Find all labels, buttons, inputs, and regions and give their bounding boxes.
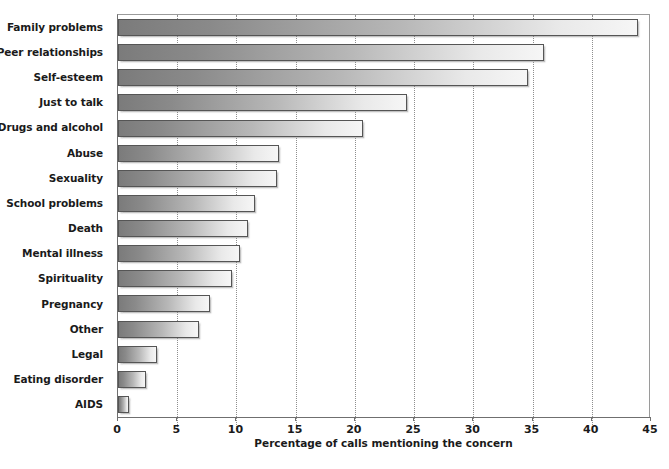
x-tick-label: 0 bbox=[113, 423, 121, 436]
bar bbox=[118, 69, 528, 86]
x-tick-label: 40 bbox=[583, 423, 598, 436]
x-tick-label: 25 bbox=[405, 423, 420, 436]
x-tick-label: 20 bbox=[346, 423, 361, 436]
bar-row bbox=[118, 216, 649, 241]
x-tick-label: 5 bbox=[172, 423, 180, 436]
x-tick-mark bbox=[176, 417, 177, 421]
bar bbox=[118, 195, 255, 212]
bar bbox=[118, 346, 157, 363]
x-axis-title: Percentage of calls mentioning the conce… bbox=[117, 437, 650, 449]
category-label: Peer relationships bbox=[0, 39, 110, 64]
bar bbox=[118, 295, 210, 312]
bar-row bbox=[118, 116, 649, 141]
bar bbox=[118, 270, 232, 287]
category-label: AIDS bbox=[0, 392, 110, 417]
bar-row bbox=[118, 241, 649, 266]
plot-area bbox=[117, 14, 650, 417]
category-label: School problems bbox=[0, 190, 110, 215]
category-label: Sexuality bbox=[0, 165, 110, 190]
bar-row bbox=[118, 90, 649, 115]
bar bbox=[118, 44, 544, 61]
category-label: Death bbox=[0, 216, 110, 241]
bar-row bbox=[118, 40, 649, 65]
category-label: Just to talk bbox=[0, 90, 110, 115]
bar-row bbox=[118, 342, 649, 367]
category-label: Mental illness bbox=[0, 241, 110, 266]
bar-row bbox=[118, 141, 649, 166]
bar-row bbox=[118, 392, 649, 417]
category-label: Eating disorder bbox=[0, 367, 110, 392]
x-tick-label: 45 bbox=[642, 423, 657, 436]
bar bbox=[118, 120, 363, 137]
category-label: Pregnancy bbox=[0, 291, 110, 316]
bar bbox=[118, 396, 129, 413]
bar-row bbox=[118, 317, 649, 342]
bar-row bbox=[118, 266, 649, 291]
x-tick-mark bbox=[413, 417, 414, 421]
x-tick-label: 30 bbox=[465, 423, 480, 436]
category-label: Self-esteem bbox=[0, 64, 110, 89]
bar-chart: Family problemsPeer relationshipsSelf-es… bbox=[0, 0, 669, 469]
x-tick-mark bbox=[117, 417, 118, 421]
bar bbox=[118, 145, 279, 162]
bar bbox=[118, 19, 638, 36]
bar-row bbox=[118, 191, 649, 216]
x-tick-label: 35 bbox=[524, 423, 539, 436]
x-axis-ticks: 051015202530354045 bbox=[0, 417, 669, 437]
bar-row bbox=[118, 367, 649, 392]
bar bbox=[118, 245, 240, 262]
x-tick-mark bbox=[591, 417, 592, 421]
category-label: Other bbox=[0, 316, 110, 341]
bar-row bbox=[118, 166, 649, 191]
category-label: Family problems bbox=[0, 14, 110, 39]
bar bbox=[118, 170, 277, 187]
category-label: Spirituality bbox=[0, 266, 110, 291]
x-tick-mark bbox=[472, 417, 473, 421]
bar bbox=[118, 220, 248, 237]
bar-series bbox=[118, 15, 649, 417]
bar bbox=[118, 94, 407, 111]
bar-row bbox=[118, 291, 649, 316]
bar-row bbox=[118, 65, 649, 90]
bar-row bbox=[118, 15, 649, 40]
category-label: Drugs and alcohol bbox=[0, 115, 110, 140]
x-tick-mark bbox=[532, 417, 533, 421]
x-tick-label: 10 bbox=[228, 423, 243, 436]
category-label: Abuse bbox=[0, 140, 110, 165]
x-tick-label: 15 bbox=[287, 423, 302, 436]
bar bbox=[118, 321, 199, 338]
category-label: Legal bbox=[0, 341, 110, 366]
x-tick-mark bbox=[295, 417, 296, 421]
bar bbox=[118, 371, 146, 388]
category-axis: Family problemsPeer relationshipsSelf-es… bbox=[0, 14, 110, 417]
x-tick-mark bbox=[650, 417, 651, 421]
x-tick-mark bbox=[235, 417, 236, 421]
x-tick-mark bbox=[354, 417, 355, 421]
